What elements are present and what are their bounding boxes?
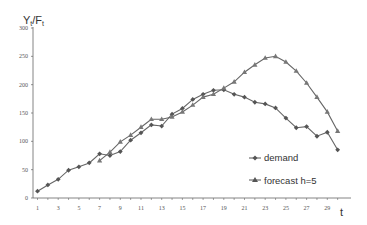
- x-tick-label: 17: [200, 205, 206, 211]
- diamond-marker-icon: [325, 130, 330, 135]
- y-tick-label: 250: [19, 53, 28, 59]
- diamond-marker-icon: [232, 92, 237, 97]
- diamond-marker-icon: [263, 102, 268, 107]
- forecast-line: [100, 56, 338, 160]
- legend-item-demand: demand: [249, 152, 298, 163]
- diamond-marker-icon: [253, 156, 258, 161]
- triangle-marker-icon: [273, 54, 278, 59]
- diamond-marker-icon: [335, 147, 340, 152]
- x-axis-label: t: [340, 206, 343, 218]
- x-tick-label: 7: [98, 205, 101, 211]
- y-tick-label: 200: [19, 82, 28, 88]
- x-tick-label: 23: [262, 205, 268, 211]
- x-tick-label: 5: [77, 205, 80, 211]
- line-chart: 0501001502002503001357911131517192123252…: [0, 0, 367, 225]
- x-tick-label: 25: [283, 205, 289, 211]
- diamond-marker-icon: [242, 95, 247, 100]
- x-tick-label: 19: [221, 205, 227, 211]
- diamond-marker-icon: [252, 100, 257, 105]
- x-tick-label: 3: [57, 205, 60, 211]
- triangle-marker-icon: [138, 124, 143, 129]
- y-axis-label: Yt/Ft: [23, 14, 44, 27]
- y-tick-label: 50: [22, 167, 28, 173]
- triangle-marker-icon: [118, 139, 123, 144]
- diamond-marker-icon: [77, 164, 82, 169]
- triangle-marker-icon: [242, 69, 247, 74]
- triangle-marker-icon: [335, 128, 340, 133]
- legend-item-forecast: forecast h=5: [249, 175, 317, 186]
- x-tick-label: 21: [242, 205, 248, 211]
- legend-label-demand: demand: [264, 152, 298, 163]
- x-tick-label: 11: [138, 205, 144, 211]
- series-lines: [35, 54, 340, 194]
- x-tick-label: 29: [324, 205, 330, 211]
- triangle-marker-icon: [190, 102, 195, 107]
- legend: demand forecast h=5: [249, 152, 317, 186]
- legend-label-forecast: forecast h=5: [264, 175, 317, 186]
- x-tick-label: 13: [159, 205, 165, 211]
- x-tick-label: 9: [119, 205, 122, 211]
- triangle-marker-icon: [252, 62, 257, 67]
- diamond-marker-icon: [35, 189, 40, 194]
- x-tick-label: 27: [304, 205, 310, 211]
- x-tick-label: 15: [179, 205, 185, 211]
- y-tick-label: 0: [25, 195, 28, 201]
- y-tick-label: 150: [19, 110, 28, 116]
- x-tick-label: 1: [36, 205, 39, 211]
- y-tick-label: 100: [19, 138, 28, 144]
